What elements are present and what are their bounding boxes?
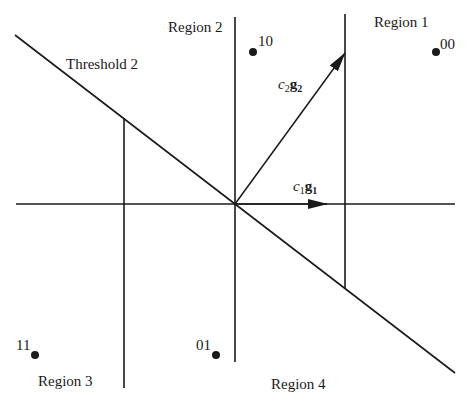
point-00-label: 00	[440, 36, 455, 52]
region-2-label: Region 2	[168, 19, 223, 35]
basis-vectors: c1g1c2g2	[235, 53, 345, 204]
point-11-dot	[31, 351, 39, 359]
threshold-2-label: Threshold 2	[66, 56, 138, 72]
point-10-dot	[249, 48, 257, 56]
point-00-dot	[432, 48, 440, 56]
point-01-label: 01	[196, 337, 211, 353]
c2g2-label: c2g2	[278, 76, 302, 94]
region-4-label: Region 4	[271, 376, 326, 392]
region-3-label: Region 3	[38, 373, 93, 389]
decision-region-diagram: c1g1c2g2 00101101 Region 1Region 2Region…	[0, 0, 472, 408]
point-11-label: 11	[16, 337, 30, 353]
c1g1-label: c1g1	[293, 178, 317, 196]
point-10-label: 10	[258, 33, 273, 49]
region-1-label: Region 1	[374, 14, 429, 30]
point-01-dot	[212, 351, 220, 359]
